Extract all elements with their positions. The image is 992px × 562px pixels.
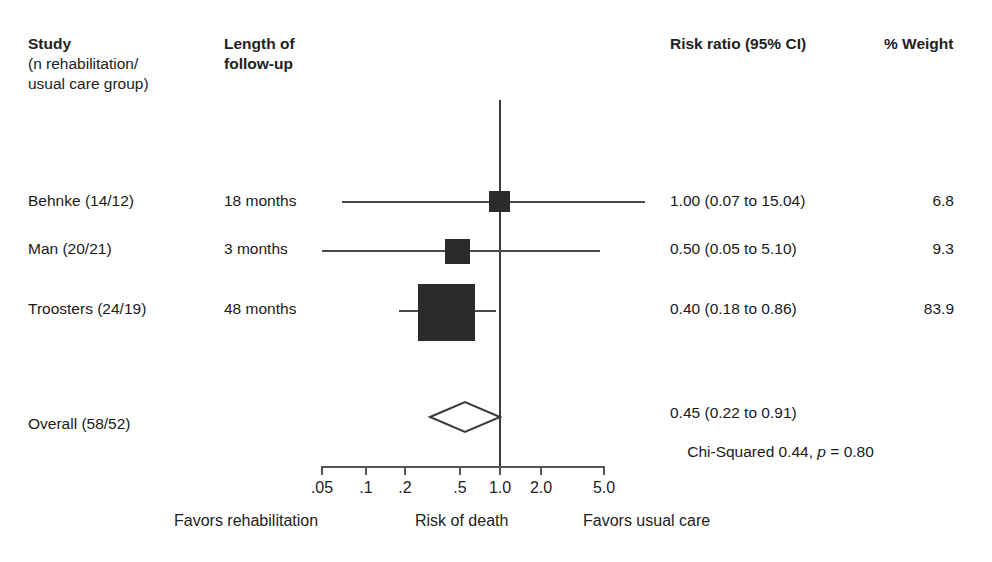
heterogeneity-statistics: Chi-Squared 0.44, p = 0.80 (670, 425, 874, 479)
followup-value: 3 months (224, 240, 288, 258)
study-label: Troosters (24/19) (28, 300, 146, 318)
forest-plot-figure: Study (n rehabilitation/ usual care grou… (0, 0, 992, 562)
heterogeneity-prefix: Chi-Squared 0.44, (687, 443, 817, 460)
effect-estimate-value: 0.50 (0.05 to 5.10) (670, 240, 797, 258)
x-axis-tick (365, 466, 367, 475)
x-axis-tick-label: .2 (375, 479, 435, 497)
x-axis-tick (540, 466, 542, 475)
x-axis-tick-label: 5.0 (574, 479, 634, 497)
p-value-symbol: p (817, 443, 826, 460)
x-axis-tick (499, 466, 501, 475)
effect-marker-behnke (489, 191, 510, 212)
x-axis-tick (321, 466, 323, 475)
overall-effect-estimate: 0.45 (0.22 to 0.91) (670, 404, 797, 422)
x-axis-tick (603, 466, 605, 475)
axis-footer-favors-usual-care: Favors usual care (583, 512, 710, 530)
effect-marker-troosters (418, 284, 475, 341)
weight-value: 83.9 (884, 300, 954, 318)
pooled-effect-diamond (420, 396, 510, 438)
weight-value: 9.3 (884, 240, 954, 258)
study-label: Behnke (14/12) (28, 192, 134, 210)
weight-value: 6.8 (884, 192, 954, 210)
study-label: Man (20/21) (28, 240, 112, 258)
effect-estimate-value: 0.40 (0.18 to 0.86) (670, 300, 797, 318)
overall-study-label: Overall (58/52) (28, 415, 131, 433)
heterogeneity-suffix: = 0.80 (826, 443, 874, 460)
effect-marker-man (445, 239, 470, 264)
x-axis-tick-label: 2.0 (511, 479, 571, 497)
x-axis-tick (404, 466, 406, 475)
axis-footer-favors-rehabilitation: Favors rehabilitation (174, 512, 318, 530)
x-axis-tick (459, 466, 461, 475)
axis-footer-risk-of-death: Risk of death (415, 512, 508, 530)
followup-value: 48 months (224, 300, 296, 318)
effect-estimate-value: 1.00 (0.07 to 15.04) (670, 192, 805, 210)
followup-value: 18 months (224, 192, 296, 210)
